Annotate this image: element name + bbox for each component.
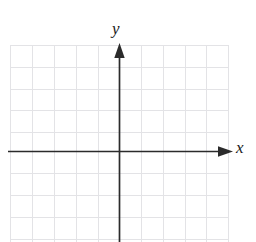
y-axis-label: y [112,20,120,37]
y-axis [114,43,124,242]
x-axis-label: x [236,139,244,156]
coordinate-grid-figure: y x [0,0,256,242]
x-axis [8,146,233,157]
x-axis-arrowhead [218,146,233,157]
coordinate-plane-svg [0,0,256,242]
